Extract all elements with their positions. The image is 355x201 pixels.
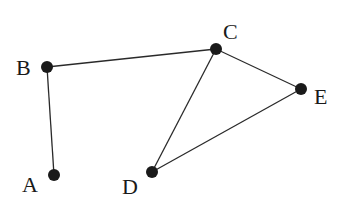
node-label-d: D xyxy=(122,174,138,199)
graph-diagram: ABCDE xyxy=(0,0,355,201)
node-e xyxy=(295,83,307,95)
edge-a-b xyxy=(47,67,54,175)
edge-c-e xyxy=(216,49,301,89)
edge-d-e xyxy=(152,89,301,172)
node-label-c: C xyxy=(223,19,238,44)
node-a xyxy=(48,169,60,181)
node-b xyxy=(41,61,53,73)
edges xyxy=(47,49,301,175)
edge-b-c xyxy=(47,49,216,67)
node-label-a: A xyxy=(22,172,38,197)
labels: ABCDE xyxy=(16,19,327,199)
node-c xyxy=(210,43,222,55)
node-label-b: B xyxy=(16,55,31,80)
node-label-e: E xyxy=(314,84,327,109)
node-d xyxy=(146,166,158,178)
